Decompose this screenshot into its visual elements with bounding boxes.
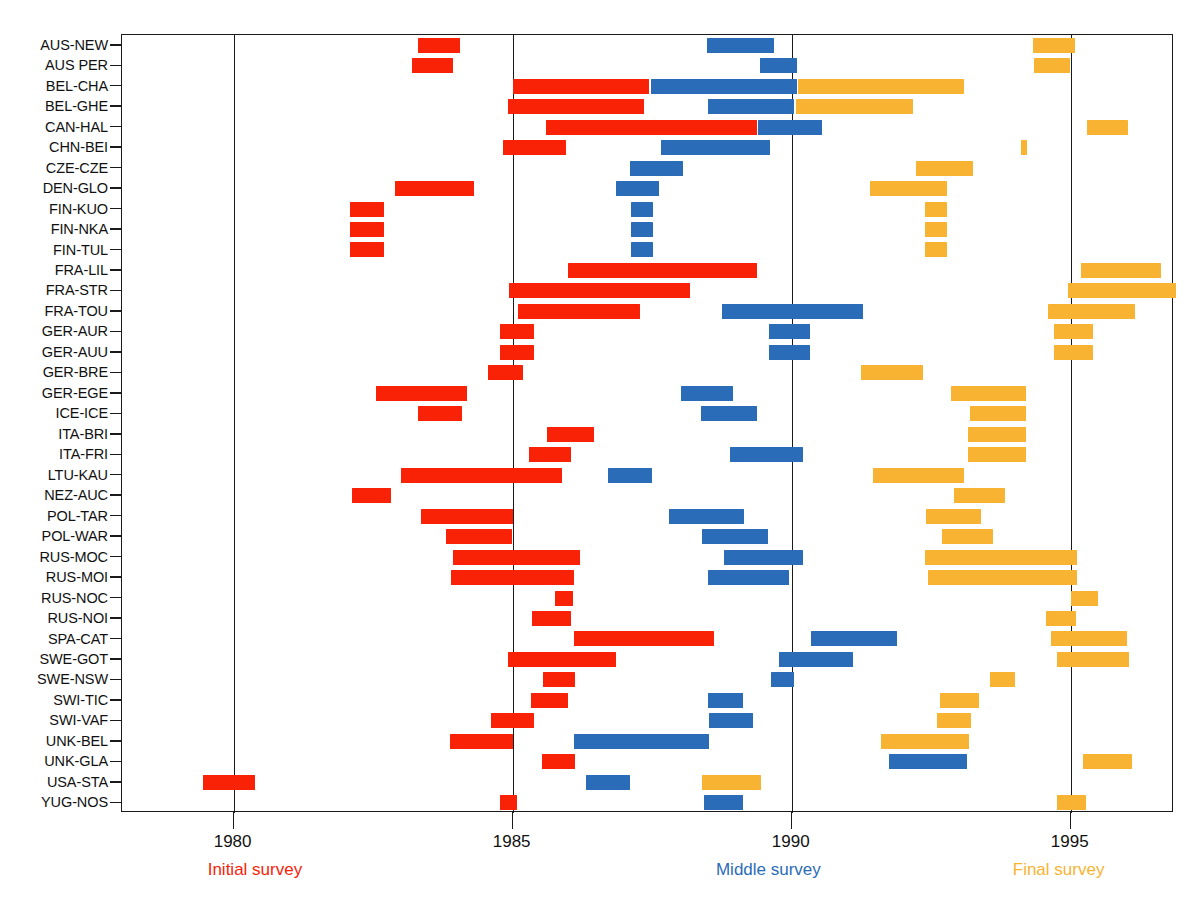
y-axis-tick-mark	[110, 494, 121, 496]
bar-fra-str-final	[1068, 283, 1176, 298]
bar-spa-cat-initial	[574, 631, 714, 646]
y-axis-tick-mark	[110, 65, 121, 67]
bar-rus-noi-initial	[532, 611, 571, 626]
gridline-1980	[234, 35, 235, 813]
bar-bel-cha-initial	[513, 79, 650, 94]
bar-ita-fri-initial	[529, 447, 571, 462]
bar-bel-ghe-middle	[708, 99, 795, 114]
y-axis-tick-fin-tul: FIN-TUL	[0, 239, 121, 261]
y-axis-tick-rus-noc: RUS-NOC	[0, 587, 121, 609]
bar-can-hal-middle	[758, 120, 823, 135]
bar-rus-moi-initial	[451, 570, 574, 585]
bar-unk-bel-final	[881, 734, 969, 749]
legend-item-initial: Initial survey	[208, 860, 302, 880]
y-axis-tick-fra-tou: FRA-TOU	[0, 300, 121, 322]
bar-swe-nsw-final	[990, 672, 1015, 687]
y-axis-tick-mark	[110, 167, 121, 169]
bar-rus-moc-middle	[724, 550, 803, 565]
bar-pol-war-initial	[446, 529, 512, 544]
bar-fra-lil-final	[1081, 263, 1161, 278]
y-axis-tick-mark	[110, 208, 121, 210]
y-axis-tick-mark	[110, 658, 121, 660]
bar-fin-nka-final	[925, 222, 947, 237]
bar-spa-cat-middle	[811, 631, 896, 646]
bar-unk-gla-final	[1083, 754, 1132, 769]
y-axis-label-text: GER-AUR	[42, 323, 108, 339]
bar-ger-aur-initial	[500, 324, 533, 339]
bar-fin-kuo-initial	[350, 202, 385, 217]
y-axis-tick-mark	[110, 576, 121, 578]
x-axis-tick-mark-1990	[791, 812, 793, 829]
y-axis-tick-bel-cha: BEL-CHA	[0, 75, 121, 97]
bar-swe-nsw-middle	[771, 672, 795, 687]
y-axis-tick-mark	[110, 146, 121, 148]
y-axis-label-text: SWE-GOT	[39, 651, 108, 667]
bar-ice-ice-final	[970, 406, 1026, 421]
y-axis-tick-usa-sta: USA-STA	[0, 771, 121, 793]
y-axis-tick-fra-str: FRA-STR	[0, 280, 121, 302]
bar-rus-noc-final	[1071, 591, 1098, 606]
bar-yug-nos-initial	[500, 795, 517, 810]
y-axis-tick-mark	[110, 617, 121, 619]
y-axis-tick-mark	[110, 638, 121, 640]
bar-rus-noi-final	[1046, 611, 1077, 626]
bar-swi-tic-middle	[708, 693, 743, 708]
bar-rus-moi-final	[928, 570, 1077, 585]
bar-swi-tic-initial	[531, 693, 569, 708]
bar-swi-vaf-final	[937, 713, 972, 728]
y-axis-tick-chn-bei: CHN-BEI	[0, 136, 121, 158]
y-axis-tick-ger-bre: GER-BRE	[0, 362, 121, 384]
bar-unk-bel-initial	[450, 734, 513, 749]
bar-rus-moc-final	[925, 550, 1078, 565]
y-axis-tick-mark	[110, 187, 121, 189]
bar-fin-tul-final	[925, 242, 947, 257]
bar-bel-ghe-initial	[508, 99, 644, 114]
bar-ger-ege-initial	[376, 386, 467, 401]
bar-ita-fri-middle	[730, 447, 803, 462]
y-axis-label-text: NEZ-AUC	[44, 487, 108, 503]
y-axis-tick-mark	[110, 679, 121, 681]
bar-fra-lil-initial	[568, 263, 757, 278]
chart-legend: Initial surveyMiddle surveyFinal survey	[0, 860, 1199, 900]
y-axis-tick-den-glo: DEN-GLO	[0, 177, 121, 199]
y-axis-label-text: USA-STA	[47, 774, 108, 790]
bar-chn-bei-initial	[503, 140, 566, 155]
y-axis-tick-mark	[110, 740, 121, 742]
y-axis-tick-bel-ghe: BEL-GHE	[0, 95, 121, 117]
y-axis-label-text: GER-EGE	[42, 385, 108, 401]
bar-fin-kuo-middle	[631, 202, 653, 217]
y-axis-tick-ger-ege: GER-EGE	[0, 382, 121, 404]
y-axis-tick-mark	[110, 433, 121, 435]
bar-yug-nos-middle	[704, 795, 743, 810]
x-axis-tick-label-1990: 1990	[772, 832, 810, 852]
y-axis-tick-mark	[110, 126, 121, 128]
bar-ltu-kau-final	[873, 468, 964, 483]
bar-usa-sta-middle	[586, 775, 630, 790]
y-axis-tick-ger-auu: GER-AUU	[0, 341, 121, 363]
y-axis-tick-mark	[110, 351, 121, 353]
y-axis-tick-mark	[110, 597, 121, 599]
y-axis-tick-ice-ice: ICE-ICE	[0, 403, 121, 425]
y-axis-tick-mark	[110, 249, 121, 251]
y-axis-tick-spa-cat: SPA-CAT	[0, 628, 121, 650]
gridline-1995	[1071, 35, 1072, 813]
bar-ita-bri-final	[968, 427, 1027, 442]
bar-fin-tul-initial	[350, 242, 385, 257]
bar-bel-cha-final	[798, 79, 963, 94]
y-axis-label-text: FRA-TOU	[45, 303, 108, 319]
y-axis-label-text: CZE-CZE	[46, 160, 108, 176]
y-axis-tick-ltu-kau: LTU-KAU	[0, 464, 121, 486]
y-axis-label-text: RUS-MOC	[39, 549, 108, 565]
y-axis-tick-swi-vaf: SWI-VAF	[0, 710, 121, 732]
bar-fra-str-initial	[509, 283, 690, 298]
y-axis-tick-mark	[110, 720, 121, 722]
y-axis-label-text: UNK-BEL	[46, 733, 108, 749]
chart-root: AUS-NEWAUS PERBEL-CHABEL-GHECAN-HALCHN-B…	[0, 0, 1199, 905]
bar-fin-tul-middle	[631, 242, 653, 257]
bar-fra-tou-middle	[722, 304, 863, 319]
y-axis-label-text: SWI-VAF	[49, 712, 108, 728]
y-axis-tick-mark	[110, 392, 121, 394]
bar-unk-bel-middle	[574, 734, 709, 749]
bar-fin-kuo-final	[925, 202, 947, 217]
bar-ger-auu-middle	[769, 345, 810, 360]
